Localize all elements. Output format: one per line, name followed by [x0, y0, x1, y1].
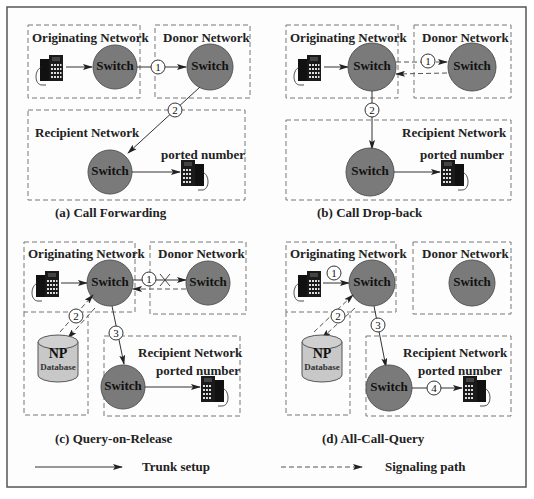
legend-signal-label: Signaling path [385, 459, 466, 474]
switch-label: Switch [191, 58, 229, 73]
ported-phone-icon [463, 376, 490, 406]
step-1-label: 1 [146, 273, 152, 285]
originating-network-label: Originating Network [28, 246, 145, 261]
ported-number-label: ported number [156, 363, 240, 378]
np-label: NP [313, 346, 332, 361]
caller-phone-icon [294, 55, 321, 85]
donor-network-label: Donor Network [422, 246, 510, 261]
recipient-network-label: Recipient Network [402, 125, 507, 140]
switch-label: Switch [104, 378, 142, 393]
step-2-label: 2 [369, 104, 375, 116]
ported-number-label: ported number [420, 147, 504, 162]
originating-network-label: Originating Network [32, 30, 149, 45]
switch-label: Switch [370, 379, 408, 394]
step-1-label: 1 [155, 61, 161, 73]
caller-phone-icon [36, 55, 63, 85]
ported-phone-icon [441, 160, 468, 190]
donor-network-label: Donor Network [163, 30, 251, 45]
step-1-label: 1 [331, 267, 337, 279]
caller-phone-icon [294, 271, 321, 301]
step-2-label: 2 [73, 310, 79, 322]
np-label: NP [49, 346, 68, 361]
switch-label: Switch [96, 58, 134, 73]
ported-phone-icon [201, 376, 228, 406]
recipient-network-label: Recipient Network [403, 345, 508, 360]
switch-label: Switch [91, 274, 129, 289]
donor-network-label: Donor Network [158, 246, 246, 261]
switch-label: Switch [453, 274, 491, 289]
donor-network-label: Donor Network [422, 30, 510, 45]
step-1-label: 1 [425, 55, 431, 67]
caption-d: (d) All-Call-Query [322, 431, 425, 446]
switch-label: Switch [353, 58, 391, 73]
number-portability-diagram: Originating Network Donor Network Recipi… [0, 0, 534, 499]
switch-label: Switch [91, 163, 129, 178]
step-3-label: 3 [113, 327, 119, 339]
ported-number-label: ported number [418, 363, 502, 378]
step-2-label: 2 [335, 310, 341, 322]
originating-network-label: Originating Network [290, 30, 407, 45]
legend-trunk-label: Trunk setup [142, 459, 210, 474]
ported-number-label: ported number [161, 147, 245, 162]
ported-phone-icon [181, 160, 208, 190]
step-2-label: 2 [172, 104, 178, 116]
database-label: Database [304, 362, 340, 372]
recipient-network-label: Recipient Network [35, 125, 140, 140]
np-database-icon: NP Database [302, 335, 342, 382]
switch-label: Switch [453, 58, 491, 73]
caption-a: (a) Call Forwarding [55, 205, 167, 220]
caption-b: (b) Call Drop-back [317, 205, 423, 220]
switch-label: Switch [189, 274, 227, 289]
switch-label: Switch [353, 274, 391, 289]
caller-phone-icon [32, 271, 59, 301]
step-3-label: 3 [375, 319, 381, 331]
database-label: Database [40, 362, 76, 372]
caption-c: (c) Query-on-Release [55, 431, 173, 446]
recipient-network-label: Recipient Network [138, 345, 243, 360]
step-4-label: 4 [431, 382, 437, 394]
np-database-icon: NP Database [38, 335, 78, 382]
switch-label: Switch [351, 163, 389, 178]
originating-network-label: Originating Network [290, 246, 407, 261]
